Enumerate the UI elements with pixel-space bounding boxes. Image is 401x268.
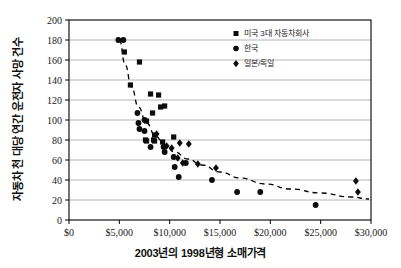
- data-point: [353, 177, 359, 185]
- data-point: [137, 126, 143, 132]
- data-point: [169, 144, 175, 152]
- y-axis-tick-labels: 020406080100120140160180200: [47, 15, 62, 226]
- data-point: [186, 140, 192, 148]
- chart-legend: 미국 3대 자동차회사한국일본/독일: [233, 29, 310, 68]
- data-point: [162, 149, 168, 155]
- data-point: [120, 37, 126, 43]
- y-tick-label: 180: [47, 35, 62, 46]
- y-tick-label: 140: [47, 75, 62, 86]
- scatter-chart: 020406080100120140160180200 $0$5,000$10,…: [0, 0, 401, 268]
- y-tick-label: 200: [47, 15, 62, 26]
- data-point: [171, 134, 176, 139]
- data-point: [172, 164, 178, 170]
- series-1: [115, 37, 318, 208]
- x-tick-label: $0: [64, 227, 74, 238]
- gridlines: [69, 40, 371, 200]
- y-tick-label: 80: [52, 135, 62, 146]
- x-tick-label: $5,000: [106, 227, 134, 238]
- x-tick-label: $25,000: [304, 227, 337, 238]
- y-tick-label: 120: [47, 95, 62, 106]
- data-point: [115, 37, 121, 43]
- data-point: [137, 59, 142, 64]
- data-point: [257, 189, 263, 195]
- data-point: [142, 128, 148, 134]
- data-point: [177, 139, 183, 147]
- series-0: [122, 49, 177, 144]
- y-tick-label: 60: [52, 155, 62, 166]
- y-tick-label: 160: [47, 55, 62, 66]
- x-tick-label: $10,000: [153, 227, 186, 238]
- y-tick-label: 40: [52, 175, 62, 186]
- data-point: [144, 138, 149, 143]
- data-point: [355, 188, 361, 196]
- data-point: [148, 91, 153, 96]
- data-point: [156, 92, 161, 97]
- data-point: [150, 110, 155, 115]
- data-point: [151, 137, 156, 142]
- y-tick-label: 0: [57, 215, 62, 226]
- data-point: [162, 103, 167, 108]
- data-point: [122, 49, 127, 54]
- data-point: [209, 177, 215, 183]
- data-point: [313, 202, 319, 208]
- data-point: [148, 144, 154, 150]
- y-axis-title: 자동차 천 대당 연간 운전자 사망 건수: [9, 9, 25, 229]
- data-point: [234, 189, 240, 195]
- x-tick-label: $15,000: [204, 227, 237, 238]
- data-point: [176, 174, 182, 180]
- legend-label: 한국: [244, 44, 258, 53]
- legend-marker-circle: [233, 46, 239, 52]
- data-point: [128, 82, 133, 87]
- x-axis-title: 2003년의 1998년형 소매가격: [0, 244, 401, 260]
- legend-marker-diamond: [233, 60, 239, 67]
- x-tick-label: $20,000: [254, 227, 287, 238]
- data-point: [213, 164, 219, 172]
- chart-figure: 020406080100120140160180200 $0$5,000$10,…: [0, 0, 401, 268]
- data-point: [135, 110, 141, 116]
- legend-marker-square: [234, 31, 239, 36]
- x-tick-label: $30,000: [355, 227, 388, 238]
- x-axis-tick-labels: $0$5,000$10,000$15,000$20,000$25,000$30,…: [64, 227, 387, 238]
- y-tick-label: 100: [47, 115, 62, 126]
- data-point: [160, 139, 165, 144]
- legend-label: 일본/독일: [244, 59, 274, 68]
- y-tick-label: 20: [52, 195, 62, 206]
- data-point: [142, 117, 148, 123]
- data-point: [136, 120, 142, 126]
- legend-label: 미국 3대 자동차회사: [244, 29, 310, 38]
- data-point: [195, 160, 201, 168]
